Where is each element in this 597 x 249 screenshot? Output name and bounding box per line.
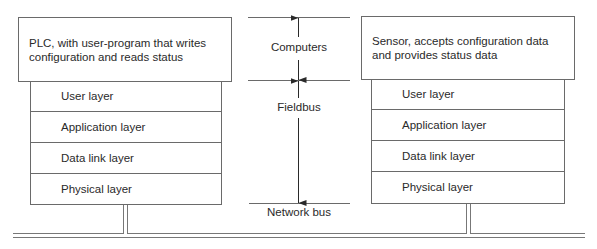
- fieldbus-label: Fieldbus: [268, 101, 330, 113]
- network-bus-label: Network bus: [254, 206, 344, 218]
- computers-label: Computers: [262, 41, 336, 53]
